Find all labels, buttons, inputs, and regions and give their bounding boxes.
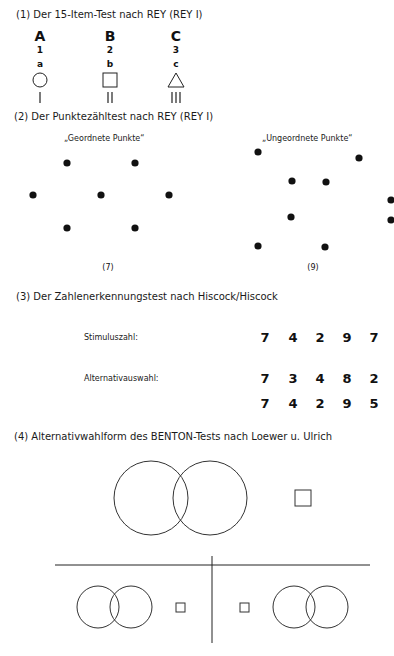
benton-choice-right: [240, 586, 348, 628]
dot: [387, 216, 394, 223]
alternative-label: Alternativauswahl:: [84, 374, 159, 383]
tally-strokes: [40, 92, 180, 103]
benton-choice-left: [77, 586, 185, 628]
digit: 4: [285, 330, 301, 345]
digit: 8: [339, 371, 355, 386]
dot: [322, 178, 329, 185]
digit: 7: [257, 396, 273, 411]
dot: [254, 148, 261, 155]
ordered-dots-title: „Geordnete Punkte“: [64, 134, 144, 143]
large-circle-left-icon: [114, 461, 188, 535]
dot: [63, 224, 70, 231]
digit: 4: [285, 396, 301, 411]
section-3-heading: (3) Der Zahlenerkennungstest nach Hiscoc…: [16, 291, 278, 302]
dot: [355, 154, 362, 161]
dot: [131, 159, 138, 166]
digit: 2: [312, 330, 328, 345]
dot: [254, 242, 261, 249]
digit: 2: [312, 396, 328, 411]
digit: 2: [366, 371, 382, 386]
dot: [287, 213, 294, 220]
triangle-icon: [168, 73, 184, 87]
ordered-dots: [29, 159, 172, 231]
digit: 3: [285, 371, 301, 386]
square-icon: [103, 73, 117, 87]
square-icon: [295, 490, 311, 506]
section-2-heading: (2) Der Punktezähltest nach REY (REY I): [14, 111, 213, 122]
dot: [29, 191, 36, 198]
large-circle-right-icon: [173, 461, 247, 535]
digit: 7: [366, 330, 382, 345]
benton-stimulus: [114, 461, 311, 535]
digit: 9: [339, 330, 355, 345]
figure-drawings: [0, 0, 394, 656]
circle-icon: [33, 73, 47, 87]
dot: [165, 191, 172, 198]
unordered-count: (9): [283, 263, 343, 272]
digit: 7: [257, 371, 273, 386]
dot: [131, 224, 138, 231]
ordered-count: (7): [78, 263, 138, 272]
stimulus-label: Stimuluszahl:: [84, 333, 138, 342]
dot: [321, 243, 328, 250]
section-4-heading: (4) Alternativwahlform des BENTON-Tests …: [14, 431, 332, 442]
dot: [63, 159, 70, 166]
digit: 4: [312, 371, 328, 386]
dot: [97, 191, 104, 198]
digit: 9: [339, 396, 355, 411]
digit: 7: [257, 330, 273, 345]
unordered-dots-title: „Ungeordnete Punkte“: [262, 134, 352, 143]
dot: [387, 196, 394, 203]
unordered-dots: [254, 148, 394, 250]
dot: [288, 177, 295, 184]
digit: 5: [366, 396, 382, 411]
benton-divider-lines: [55, 556, 370, 643]
